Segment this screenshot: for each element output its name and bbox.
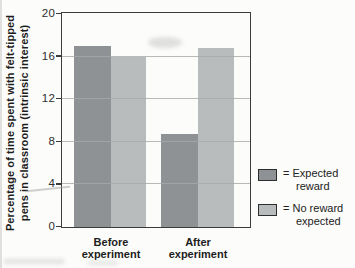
y-axis-title-line1: Percentage of time spent with felt-tippe… (4, 10, 18, 236)
bar-expected-reward-before-experiment (74, 46, 111, 227)
y-tick-label-12: 12 (18, 92, 55, 105)
y-tick-mark-4 (56, 183, 61, 185)
x-category-label-after: After experiment (169, 236, 228, 260)
y-tick-mark-8 (56, 141, 61, 143)
legend-label-no-reward-line2: expected (283, 215, 343, 228)
y-tick-label-16: 16 (18, 50, 55, 63)
legend-entry-expected-reward: = Expected reward (258, 167, 355, 195)
y-tick-label-8: 8 (18, 135, 55, 148)
gridline-12 (62, 98, 250, 99)
gridline-8 (62, 141, 250, 142)
legend-swatch-no-reward (258, 204, 277, 216)
y-axis-title: Percentage of time spent with felt-tippe… (4, 10, 34, 236)
scan-artifact-left-edge (0, 0, 2, 268)
y-tick-mark-0 (56, 226, 61, 228)
y-tick-label-4: 4 (18, 177, 55, 190)
legend-label-expected-reward: = Expected reward (283, 167, 338, 193)
x-category-label-after-line1: After (169, 236, 228, 248)
scan-artifact-bottom-smudge-2 (88, 261, 118, 265)
y-axis-title-line2: pens in classroom (intrinsic interest) (18, 10, 32, 236)
x-category-label-before: Before experiment (82, 236, 141, 260)
y-tick-mark-16 (56, 55, 61, 57)
x-category-label-after-line2: experiment (169, 248, 228, 260)
bar-no-reward-expected-before-experiment (111, 57, 146, 227)
legend-entry-no-reward: = No reward expected (258, 202, 355, 230)
legend-swatch-expected-reward (258, 169, 277, 181)
gridline-4 (62, 183, 250, 184)
plot-area (61, 12, 251, 228)
gridline-16 (62, 56, 250, 57)
scan-artifact-bottom-smudge (4, 259, 64, 264)
y-tick-mark-12 (56, 98, 61, 100)
y-tick-mark-20 (56, 13, 61, 15)
bar-chart-figure: Percentage of time spent with felt-tippe… (0, 0, 355, 268)
legend-label-expected-reward-line1: = Expected (283, 167, 338, 180)
x-category-label-before-line1: Before (82, 236, 141, 248)
legend-label-no-reward-line1: = No reward (283, 202, 343, 215)
bar-expected-reward-after-experiment (161, 134, 198, 227)
legend: = Expected reward = No reward expected (258, 167, 355, 239)
bar-no-reward-expected-after-experiment (198, 48, 234, 227)
legend-label-expected-reward-line2: reward (283, 180, 338, 193)
x-category-label-before-line2: experiment (82, 248, 141, 260)
y-tick-label-0: 0 (18, 220, 55, 233)
y-tick-label-20: 20 (18, 7, 55, 20)
legend-label-no-reward: = No reward expected (283, 202, 343, 228)
